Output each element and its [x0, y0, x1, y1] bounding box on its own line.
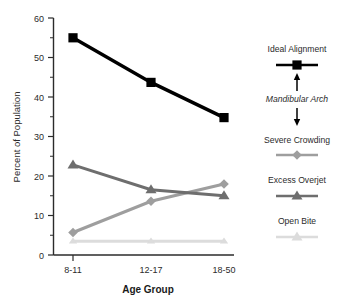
- ideal-alignment-marker: [219, 113, 228, 122]
- x-tick-label: 18-50: [212, 265, 235, 275]
- legend-item-excess-overjet[interactable]: Excess Overjet: [268, 175, 326, 200]
- legend-label-open-bite: Open Bite: [278, 216, 316, 226]
- x-axis-title: Age Group: [122, 284, 174, 295]
- y-ticks-group: 60 50 40 30 20 10 0: [34, 14, 54, 261]
- y-tick-label: 40: [34, 93, 44, 103]
- arrow-up-icon: [294, 73, 300, 91]
- legend: Ideal Alignment Mandibular Arch Severe C…: [264, 44, 330, 241]
- severe-crowding-marker: [68, 228, 78, 238]
- ideal-alignment-line: [73, 38, 224, 118]
- severe-crowding-marker: [146, 197, 156, 207]
- legend-item-open-bite[interactable]: Open Bite: [276, 216, 318, 241]
- series-ideal-alignment: [68, 33, 228, 122]
- y-tick-label: 30: [34, 132, 44, 142]
- severe-crowding-marker: [219, 179, 229, 189]
- y-tick-label: 50: [34, 53, 44, 63]
- y-tick-label: 20: [34, 172, 44, 182]
- y-tick-label: 0: [39, 251, 44, 261]
- legend-label-ideal-alignment: Ideal Alignment: [268, 44, 327, 54]
- legend-item-ideal-alignment[interactable]: Ideal Alignment: [268, 44, 327, 70]
- legend-marker-square-icon: [292, 60, 301, 69]
- arrow-down-icon: [294, 108, 300, 126]
- chart-container: 60 50 40 30 20 10 0 8-11 12-17 18-50 Per…: [0, 0, 341, 302]
- series-open-bite: [69, 237, 228, 243]
- legend-annotation-mandibular-arch: Mandibular Arch: [266, 94, 328, 104]
- x-ticks-group: 8-11 12-17 18-50: [64, 255, 235, 275]
- x-tick-label: 8-11: [64, 265, 81, 275]
- line-chart: 60 50 40 30 20 10 0 8-11 12-17 18-50 Per…: [0, 0, 341, 302]
- ideal-alignment-marker: [68, 33, 77, 42]
- series-excess-overjet: [68, 159, 230, 199]
- y-tick-label: 10: [34, 211, 44, 221]
- y-tick-label: 60: [34, 14, 44, 24]
- ideal-alignment-marker: [146, 78, 155, 87]
- legend-label-severe-crowding: Severe Crowding: [264, 135, 330, 145]
- legend-marker-diamond-icon: [292, 150, 302, 160]
- legend-label-excess-overjet: Excess Overjet: [268, 175, 326, 185]
- x-tick-label: 12-17: [139, 265, 162, 275]
- axes-group: [54, 18, 235, 255]
- y-axis-title: Percent of Population: [11, 92, 22, 183]
- legend-item-severe-crowding[interactable]: Severe Crowding: [264, 135, 330, 160]
- excess-overjet-marker: [68, 159, 79, 168]
